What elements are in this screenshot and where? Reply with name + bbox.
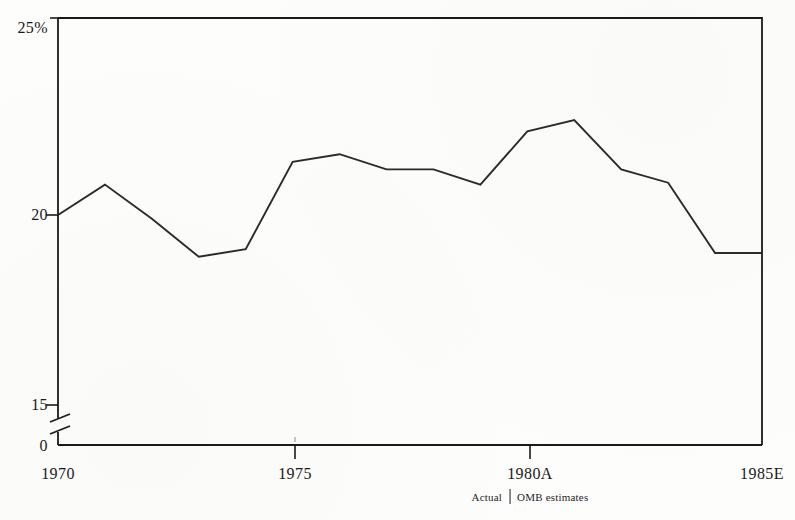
actual-vs-estimates-note: Actual OMB estimates (472, 489, 589, 504)
line-chart-figure: 25% 20 15 0 1970 1975 1980A 1985E Actual… (0, 0, 795, 520)
note-actual-label: Actual (472, 491, 510, 503)
data-series-line (58, 120, 762, 257)
x-axis-tick-label-1975: 1975 (278, 466, 312, 482)
axis-break-mark-upper (50, 414, 70, 422)
plot-frame-top-right (58, 18, 762, 445)
chart-page: 25% 20 15 0 1970 1975 1980A 1985E Actual… (0, 0, 795, 520)
x-axis-tick-label-1985e: 1985E (740, 466, 784, 482)
y-axis-tick-label-25: 25% (2, 20, 48, 36)
y-axis-tick-label-20: 20 (2, 207, 48, 223)
x-axis-tick-label-1970: 1970 (41, 466, 75, 482)
y-axis-tick-label-0: 0 (2, 438, 48, 454)
x-axis-tick-label-1980a: 1980A (507, 466, 553, 482)
axis-break-mark-lower (50, 426, 70, 434)
y-axis-tick-label-15: 15 (2, 397, 48, 413)
plot-area (0, 0, 795, 520)
note-estimates-label: OMB estimates (510, 491, 588, 503)
